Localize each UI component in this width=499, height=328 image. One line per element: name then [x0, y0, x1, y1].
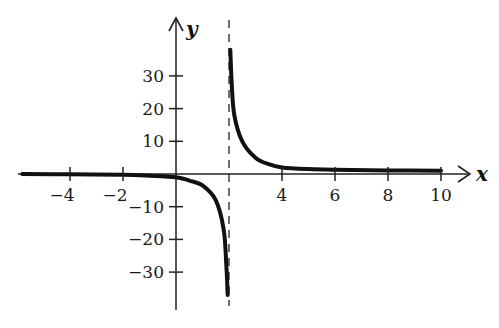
y-axis-label: y — [185, 17, 199, 41]
y-tick-label: 20 — [142, 99, 164, 119]
x-tick-label: 6 — [330, 185, 341, 205]
function-graph: −4−246810302010−10−20−30 x y — [0, 0, 499, 328]
x-tick-label: 8 — [383, 185, 394, 205]
y-tick-label: 10 — [142, 131, 164, 151]
axes — [18, 18, 470, 310]
y-tick-label: −20 — [128, 229, 164, 249]
y-tick-label: −30 — [128, 262, 164, 282]
x-tick-label: −2 — [102, 185, 127, 205]
curves — [22, 50, 441, 295]
x-tick-label: −4 — [49, 185, 74, 205]
x-tick-label: 4 — [277, 185, 288, 205]
y-tick-label: −10 — [128, 197, 164, 217]
x-axis-label: x — [475, 162, 489, 186]
right-branch-curve — [230, 50, 441, 171]
y-tick-label: 30 — [142, 66, 164, 86]
x-tick-label: 10 — [430, 185, 452, 205]
